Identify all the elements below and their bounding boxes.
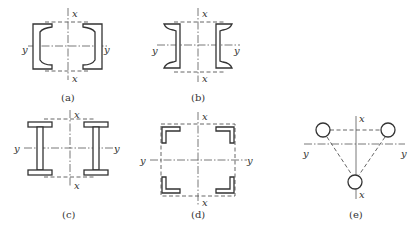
- tube-right: [381, 123, 395, 137]
- panel-label-b: (b): [191, 92, 205, 103]
- x-axis-label-top: x: [202, 8, 208, 19]
- x-axis-label-bottom: x: [359, 189, 365, 200]
- left-channel: [33, 24, 52, 69]
- left-i-section: [28, 122, 52, 175]
- panel-c: x x y y (c): [13, 109, 120, 220]
- panel-label-a: (a): [61, 92, 75, 103]
- x-axis-label-bottom: x: [202, 73, 208, 84]
- x-axis-label-top: x: [74, 109, 80, 120]
- y-axis-label-right: y: [246, 155, 253, 166]
- x-axis-label-bottom: x: [202, 197, 208, 208]
- y-axis-label-right: y: [103, 44, 110, 55]
- x-axis-label-top: x: [72, 8, 78, 19]
- left-channel: [164, 24, 180, 68]
- tube-left: [316, 123, 330, 137]
- angle-bottom-right: [216, 177, 234, 193]
- figure-canvas: x x y y (a) x x y y (b) x: [0, 0, 416, 232]
- panel-d: x x y y (d): [139, 111, 253, 220]
- panel-label-c: (c): [62, 209, 76, 220]
- angle-bottom-left: [162, 177, 180, 193]
- y-axis-label-left: y: [151, 45, 158, 56]
- x-axis-label-bottom: x: [74, 180, 80, 191]
- x-axis-label-top: x: [359, 113, 365, 124]
- y-axis-label-left: y: [139, 155, 146, 166]
- y-axis-label-right: y: [233, 45, 240, 56]
- panel-label-d: (d): [191, 209, 205, 220]
- y-axis-label-left: y: [21, 44, 28, 55]
- lacing-right: [359, 137, 385, 175]
- right-i-section: [84, 122, 108, 175]
- right-channel: [83, 24, 102, 69]
- y-axis-label-right: y: [113, 143, 120, 154]
- y-axis-label-left: y: [302, 148, 309, 159]
- x-axis-label-top: x: [202, 111, 208, 122]
- panel-b: x x y y (b): [151, 8, 240, 103]
- angle-top-left: [162, 127, 180, 143]
- right-channel: [216, 24, 232, 68]
- y-axis-label-right: y: [400, 148, 407, 159]
- angle-top-right: [216, 127, 234, 143]
- lacing-left: [327, 137, 352, 175]
- panel-label-e: (e): [349, 209, 363, 220]
- panel-e: x x y y (e): [302, 113, 407, 220]
- panel-a: x x y y (a): [21, 8, 110, 103]
- x-axis-label-bottom: x: [72, 73, 78, 84]
- tube-bottom: [348, 175, 362, 189]
- y-axis-label-left: y: [13, 143, 20, 154]
